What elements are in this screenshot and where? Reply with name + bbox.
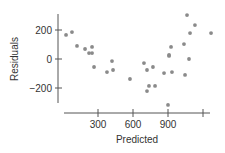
data-point — [90, 51, 94, 55]
x-axis-title: Predicted — [116, 134, 158, 145]
residual-scatter-chart: 2000−200 300600900 Predicted Residuals — [0, 0, 225, 153]
data-point — [151, 65, 155, 69]
data-point — [193, 23, 197, 27]
data-point — [147, 84, 151, 88]
x-tick-label: 900 — [160, 119, 177, 130]
data-point — [105, 70, 109, 74]
y-axis: 2000−200 — [29, 14, 62, 103]
data-point — [187, 57, 191, 61]
data-point — [70, 30, 74, 34]
data-point — [83, 47, 87, 51]
y-axis-title: Residuals — [9, 37, 20, 81]
data-point — [142, 61, 146, 65]
data-point — [145, 89, 149, 93]
data-point — [166, 103, 170, 107]
data-point — [153, 84, 157, 88]
x-axis: 300600900 — [64, 109, 210, 130]
y-tick-label: 0 — [46, 54, 52, 65]
data-point — [185, 13, 189, 17]
data-point — [110, 59, 114, 63]
data-point — [90, 45, 94, 49]
data-point — [64, 33, 68, 37]
data-point — [162, 71, 166, 75]
data-point — [209, 31, 213, 35]
data-point — [183, 73, 187, 77]
data-point — [170, 70, 174, 74]
x-tick-label: 600 — [125, 119, 142, 130]
data-point — [145, 68, 149, 72]
data-point — [188, 31, 192, 35]
data-point — [167, 54, 171, 58]
data-point — [182, 42, 186, 46]
data-point — [128, 77, 132, 81]
x-tick-label: 300 — [90, 119, 107, 130]
y-tick-label: 200 — [35, 25, 52, 36]
data-point — [92, 65, 96, 69]
data-point — [111, 68, 115, 72]
data-points — [64, 13, 213, 107]
data-point — [169, 45, 173, 49]
data-point — [75, 44, 79, 48]
y-tick-label: −200 — [29, 83, 52, 94]
